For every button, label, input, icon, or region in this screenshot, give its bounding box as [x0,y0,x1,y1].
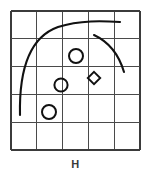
figure-caption: H [0,157,151,171]
grid-vertical-lines [11,11,140,150]
curves-group [20,21,124,115]
data-point-diamond-1 [88,72,100,84]
data-point-circle-1 [69,49,83,63]
figure-canvas [0,0,151,178]
grid-horizontal-lines [11,11,140,150]
outer-arc-curve [20,21,120,115]
figure-container: H [0,0,151,178]
data-point-circle-3 [42,105,56,119]
markers-group [42,49,100,119]
data-point-circle-2 [54,78,67,91]
